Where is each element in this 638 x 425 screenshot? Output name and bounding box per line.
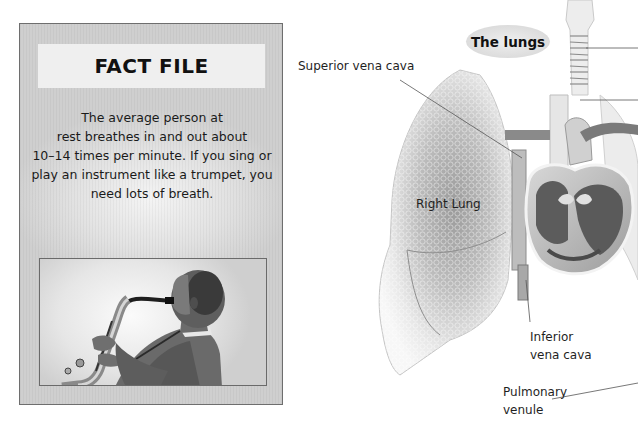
diagram-title-badge: The lungs (466, 25, 550, 58)
label-superior-vena-cava: Superior vena cava (298, 57, 414, 75)
fact-file-title: FACT FILE (94, 54, 208, 78)
label-right-lung-text: Right Lung (416, 195, 481, 213)
lungs-diagram: The lungs Superior vena cava Right Lung … (300, 0, 638, 425)
fact-file-text: The average person at rest breathes in a… (26, 108, 278, 203)
label-pulmonary-venule: Pulmonary venule (503, 383, 567, 419)
saxophone-player-photo (39, 258, 267, 386)
fact-text-line: The average person at (26, 108, 278, 127)
fact-file-panel: FACT FILE The average person at rest bre… (19, 23, 283, 405)
label-pulmonary-venule-line2: venule (503, 401, 567, 419)
label-inferior-vena-cava: Inferior vena cava (530, 328, 592, 364)
fact-file-title-box: FACT FILE (38, 44, 265, 88)
fact-text-line: 10–14 times per minute. If you sing or (26, 146, 278, 165)
diagram-title: The lungs (471, 34, 545, 50)
fact-text-line: need lots of breath. (26, 184, 278, 203)
fact-text-line: play an instrument like a trumpet, you (26, 165, 278, 184)
label-inferior-vena-cava-line2: vena cava (530, 346, 592, 364)
label-pulmonary-venule-line1: Pulmonary (503, 383, 567, 401)
label-right-lung: Right Lung (416, 195, 481, 213)
label-superior-vena-cava-text: Superior vena cava (298, 57, 414, 75)
fact-text-line: rest breathes in and out about (26, 127, 278, 146)
saxophone-player-icon (40, 259, 267, 386)
label-inferior-vena-cava-line1: Inferior (530, 328, 592, 346)
